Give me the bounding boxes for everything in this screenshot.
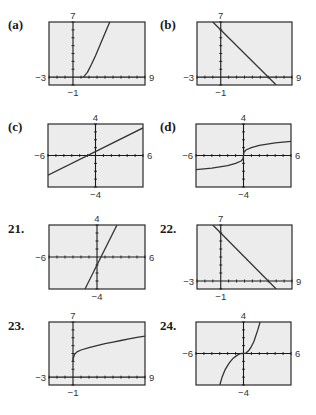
xmin-label: −6 <box>182 150 193 161</box>
graph-panel-b: (b)7−1−39 <box>160 10 301 98</box>
graph-panel-21: 21.4−4−66 <box>8 213 154 302</box>
graph-panel-24: 24.4−4−66 <box>160 310 300 398</box>
xmin-label: −3 <box>183 72 194 83</box>
panel-label: (c) <box>8 119 22 134</box>
ymin-label: −4 <box>90 189 101 200</box>
viewing-window-frame <box>49 322 145 385</box>
xmin-label: −6 <box>182 348 193 359</box>
panel-label: (b) <box>160 17 176 32</box>
xmin-label: −3 <box>35 72 46 83</box>
xmin-label: −6 <box>35 252 46 263</box>
xmax-label: 6 <box>147 150 152 161</box>
xmax-label: 9 <box>149 372 154 383</box>
ymax-label: 7 <box>70 10 75 21</box>
graph-panel-22: 22.7−1−39 <box>160 213 301 302</box>
xmax-label: 9 <box>149 72 154 83</box>
graph-panel-a: (a)7−1−39 <box>8 10 154 98</box>
ymin-label: −1 <box>215 87 226 98</box>
xmin-label: −3 <box>183 276 194 287</box>
graph-figure: (a)7−1−39(b)7−1−39(c)4−4−66(d)4−4−6621.4… <box>0 0 316 415</box>
ymax-label: 7 <box>70 310 75 321</box>
panel-label: (a) <box>8 17 23 32</box>
ymax-label: 4 <box>241 112 246 123</box>
xmax-label: 9 <box>296 276 301 287</box>
ymin-label: −4 <box>238 189 249 200</box>
ymax-label: 4 <box>94 213 99 224</box>
xmax-label: 6 <box>295 348 300 359</box>
panel-label: 24. <box>160 318 176 333</box>
xmax-label: 9 <box>296 72 301 83</box>
panel-label: (d) <box>160 119 176 134</box>
graph-panel-d: (d)4−4−66 <box>160 112 300 200</box>
ymax-label: 7 <box>218 213 223 224</box>
ymin-label: −1 <box>68 87 79 98</box>
ymax-label: 4 <box>241 310 246 321</box>
xmin-label: −3 <box>35 372 46 383</box>
panel-label: 22. <box>160 221 176 236</box>
ymin-label: −1 <box>68 387 79 398</box>
panel-label: 23. <box>8 318 24 333</box>
ymax-label: 4 <box>93 112 98 123</box>
ymax-label: 7 <box>218 10 223 21</box>
ymin-label: −4 <box>238 387 249 398</box>
xmax-label: 6 <box>295 150 300 161</box>
ymin-label: −4 <box>92 291 103 302</box>
panel-label: 21. <box>8 221 24 236</box>
xmin-label: −6 <box>34 150 45 161</box>
xmax-label: 6 <box>149 252 154 263</box>
ymin-label: −1 <box>215 291 226 302</box>
graph-panel-c: (c)4−4−66 <box>8 112 152 200</box>
graph-panel-23: 23.7−1−39 <box>8 310 154 398</box>
